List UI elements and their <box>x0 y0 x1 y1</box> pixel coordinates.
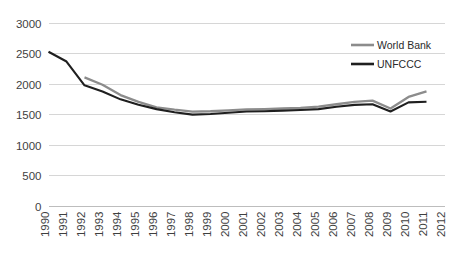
x-axis-tick-label: 1998 <box>183 212 195 238</box>
y-axis-tick-label: 0 <box>35 201 41 213</box>
x-axis-tick-label: 2011 <box>417 212 429 237</box>
legend-label: UNFCCC <box>377 58 422 70</box>
series-line-unfccc <box>49 52 427 115</box>
x-axis-tick-label: 2002 <box>255 212 267 238</box>
x-axis-tick-label: 1994 <box>111 211 123 237</box>
data-series <box>49 52 427 115</box>
y-axis-tick-label: 1500 <box>16 109 42 121</box>
chart-container: 050010001500200025003000 199019911992199… <box>0 0 454 254</box>
x-axis-tick-label: 1996 <box>147 212 159 238</box>
x-axis-tick-label: 1990 <box>39 212 51 238</box>
y-axis-tick-label: 500 <box>22 170 41 182</box>
x-axis-tick-label: 2009 <box>381 212 393 238</box>
chart-legend: World BankUNFCCC <box>351 39 432 70</box>
x-axis-tick-label: 2008 <box>363 212 375 238</box>
gridlines <box>49 24 445 207</box>
line-chart: 050010001500200025003000 199019911992199… <box>0 0 454 254</box>
y-axis-tick-label: 1000 <box>16 140 42 152</box>
x-axis-tick-label: 2000 <box>219 212 231 238</box>
x-axis-tick-label: 2004 <box>291 211 303 237</box>
x-axis-tick-label: 2007 <box>345 212 357 238</box>
x-axis-tick-label: 1999 <box>201 212 213 238</box>
y-axis-tick-label: 2500 <box>16 48 42 60</box>
y-axis-tick-label: 2000 <box>16 79 42 91</box>
legend-label: World Bank <box>377 39 432 51</box>
y-axis-tick-labels: 050010001500200025003000 <box>16 18 42 213</box>
y-axis-tick-label: 3000 <box>16 18 42 30</box>
x-axis-tick-label: 2003 <box>273 212 285 238</box>
x-axis-tick-label: 2001 <box>237 212 249 238</box>
x-axis-tick-label: 2005 <box>309 212 321 238</box>
x-axis-tick-label: 2010 <box>399 212 411 238</box>
x-axis-tick-label: 1991 <box>57 212 69 238</box>
x-axis-tick-label: 1993 <box>93 212 105 238</box>
x-axis-tick-labels: 1990199119921993199419951996199719981999… <box>39 211 447 237</box>
x-axis-tick-label: 1995 <box>129 212 141 238</box>
x-axis-tick-label: 1992 <box>75 212 87 238</box>
x-axis-tick-label: 1997 <box>165 212 177 238</box>
x-axis-tick-label: 2012 <box>435 212 447 238</box>
x-axis-tick-label: 2006 <box>327 212 339 238</box>
